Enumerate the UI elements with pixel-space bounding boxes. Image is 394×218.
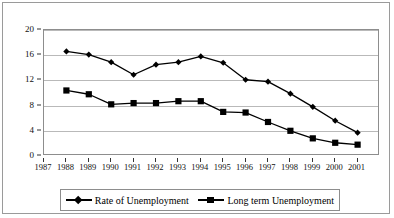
data-point-diamond <box>355 130 361 136</box>
legend-entry-long-term-unemployment[interactable]: Long term Unemployment <box>198 195 334 206</box>
x-axis-tick-mark <box>65 158 66 162</box>
x-axis-tick-mark <box>289 158 290 162</box>
data-point-square <box>108 101 114 107</box>
data-point-diamond <box>153 62 159 68</box>
x-axis-tick-mark <box>88 158 89 162</box>
x-axis-tick-label: 2001 <box>348 162 365 172</box>
chart-legend: Rate of Unemployment Long term Unemploym… <box>60 189 340 211</box>
x-axis-tick-label: 1991 <box>124 162 141 172</box>
x-axis-tick-mark <box>245 158 246 162</box>
data-point-square <box>243 109 249 115</box>
x-axis: 1987198819891990199119921993199419951996… <box>3 158 394 178</box>
y-axis-tick-mark <box>37 79 41 80</box>
data-point-square <box>220 109 226 115</box>
x-axis-tick-mark <box>43 158 44 162</box>
y-axis-tick-mark <box>37 155 41 156</box>
data-point-diamond <box>175 59 181 65</box>
y-axis-tick-label: 20 <box>25 25 34 34</box>
data-point-diamond <box>63 48 69 54</box>
data-point-diamond <box>131 72 137 78</box>
x-axis-tick-mark <box>267 158 268 162</box>
y-axis-tick-mark <box>37 29 41 30</box>
data-point-square <box>153 100 159 106</box>
x-axis-tick-mark <box>110 158 111 162</box>
data-point-square <box>332 140 338 146</box>
x-axis-tick-mark <box>357 158 358 162</box>
y-axis-tick-label: 12 <box>25 75 34 84</box>
x-axis-tick-label: 1987 <box>35 162 52 172</box>
data-point-square <box>310 135 316 141</box>
square-marker-icon <box>198 195 224 205</box>
x-axis-tick-label: 1999 <box>303 162 320 172</box>
data-point-diamond <box>332 118 338 124</box>
x-axis-tick-label: 1994 <box>191 162 208 172</box>
series-layer <box>44 30 380 156</box>
data-point-diamond <box>310 104 316 110</box>
x-axis-tick-label: 1990 <box>102 162 119 172</box>
data-point-diamond <box>265 79 271 85</box>
diamond-marker-icon <box>66 195 92 205</box>
x-axis-tick-label: 1993 <box>169 162 186 172</box>
data-point-square <box>287 128 293 134</box>
data-point-square <box>198 98 204 104</box>
x-axis-tick-label: 1995 <box>214 162 231 172</box>
y-axis-tick-label: 8 <box>30 100 35 109</box>
data-point-square <box>355 142 361 148</box>
legend-entry-rate-of-unemployment[interactable]: Rate of Unemployment <box>66 195 189 206</box>
legend-label: Rate of Unemployment <box>95 195 189 206</box>
x-axis-tick-mark <box>155 158 156 162</box>
data-point-square <box>63 87 69 93</box>
x-axis-tick-mark <box>177 158 178 162</box>
x-axis-tick-mark <box>200 158 201 162</box>
x-axis-tick-mark <box>334 158 335 162</box>
data-point-square <box>131 100 137 106</box>
x-axis-tick-label: 1997 <box>259 162 276 172</box>
data-point-square <box>175 98 181 104</box>
y-axis-tick-mark <box>37 129 41 130</box>
x-axis-tick-label: 1992 <box>147 162 164 172</box>
data-point-diamond <box>108 59 114 65</box>
x-axis-tick-label: 2000 <box>326 162 343 172</box>
legend-label: Long term Unemployment <box>227 195 334 206</box>
x-axis-tick-mark <box>312 158 313 162</box>
x-axis-tick-mark <box>133 158 134 162</box>
data-point-square <box>265 119 271 125</box>
series-long-term-unemployment <box>63 87 360 147</box>
plot-area <box>43 29 379 155</box>
x-axis-tick-label: 1998 <box>281 162 298 172</box>
chart-figure: 048121620 198719881989199019911992199319… <box>0 0 394 218</box>
y-axis-tick-label: 4 <box>30 125 35 134</box>
x-axis-tick-label: 1989 <box>79 162 96 172</box>
data-point-diamond <box>86 51 92 57</box>
figure-border: 048121620 198719881989199019911992199319… <box>2 2 390 214</box>
data-point-square <box>86 91 92 97</box>
data-point-diamond <box>287 91 293 97</box>
x-axis-tick-mark <box>222 158 223 162</box>
series-rate-of-unemployment <box>63 48 360 135</box>
y-axis-tick-mark <box>37 54 41 55</box>
y-axis: 048121620 <box>3 3 41 181</box>
y-axis-tick-mark <box>37 104 41 105</box>
x-axis-tick-label: 1988 <box>57 162 74 172</box>
data-point-diamond <box>198 53 204 59</box>
x-axis-tick-label: 1996 <box>236 162 253 172</box>
y-axis-tick-label: 16 <box>25 50 34 59</box>
